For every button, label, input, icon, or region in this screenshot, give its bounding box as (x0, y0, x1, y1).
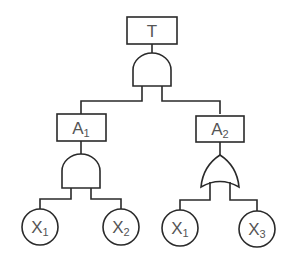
connector-a1-x1 (40, 188, 71, 209)
event-a2-sub: 2 (223, 128, 229, 140)
basic-event-x1-right: X1 (162, 210, 198, 246)
connector-a2-x3 (230, 182, 257, 211)
a2-or-gate-icon (201, 155, 239, 187)
connector-a2-x1 (180, 182, 210, 210)
basic-event-x2: X2 (103, 209, 139, 245)
connector-gate-a2 (162, 86, 220, 114)
top-and-gate-icon (133, 53, 171, 86)
basic-event-x1-left: X1 (22, 209, 58, 245)
fault-tree-diagram: T A1 A2 X1 X2 (0, 0, 295, 261)
top-event-label: T (147, 22, 157, 41)
event-a1: A1 (57, 114, 106, 141)
connector-a1-x2 (91, 188, 121, 209)
event-a1-label: A (72, 119, 84, 138)
basic-event-x3: X3 (239, 211, 275, 247)
connector-gate-a1 (81, 86, 142, 114)
event-a2-label: A (211, 120, 223, 139)
a1-and-gate-icon (62, 154, 100, 188)
event-a2: A2 (196, 116, 244, 142)
event-a1-sub: 1 (84, 127, 90, 139)
top-event-t: T (127, 17, 177, 44)
